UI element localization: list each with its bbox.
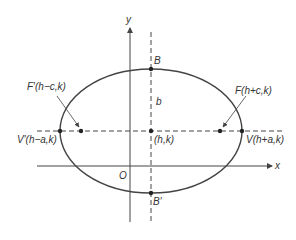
focus-left-label: F′(h−c,k) (27, 81, 66, 92)
center-point (149, 129, 153, 133)
ellipse-diagram: x y O B b F′(h−c,k) F(h+c,k) V′(h−a,k) (… (0, 0, 296, 240)
vertex-right-point (240, 129, 244, 133)
covertex-bottom-label: B′ (153, 196, 163, 207)
vertex-right-label: V(h+a,k) (246, 134, 284, 145)
covertex-top-label: B (154, 55, 161, 66)
focus-left-point (79, 129, 83, 133)
semi-minor-label: b (156, 96, 162, 107)
vertex-left-label: V′(h−a,k) (17, 134, 57, 145)
focus-right-leader (223, 96, 246, 127)
y-axis-label: y (125, 14, 132, 25)
covertex-top-point (149, 67, 153, 71)
origin-label: O (119, 170, 127, 181)
vertex-left-point (58, 129, 62, 133)
center-label: (h,k) (154, 134, 174, 145)
x-axis-label: x (274, 160, 281, 171)
covertex-bottom-point (149, 191, 153, 195)
focus-right-point (218, 129, 222, 133)
focus-right-label: F(h+c,k) (235, 85, 272, 96)
